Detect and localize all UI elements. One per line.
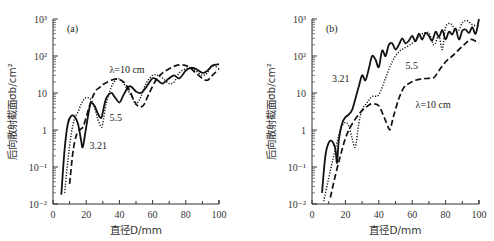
x-tick-label: 40	[114, 209, 124, 220]
x-tick-label: 80	[181, 209, 191, 220]
curve-label: 3.21	[332, 73, 350, 84]
y-tick-label: 10⁻²	[29, 199, 47, 210]
x-tick-label: 100	[472, 209, 487, 220]
curve-label: λ=10 cm	[416, 99, 451, 110]
x-tick-label: 0	[51, 209, 56, 220]
curve-label: 5.5	[406, 60, 419, 71]
series-line-5-5	[324, 21, 479, 202]
series-line-10cm	[70, 65, 219, 184]
x-axis-title: 直径D/mm	[369, 224, 421, 236]
curve-label: 5.5	[109, 112, 122, 123]
y-tick-label: 1	[42, 125, 47, 136]
y-axis-title: 后向散射截面σb/cm²	[265, 63, 277, 160]
x-tick-label: 0	[310, 209, 315, 220]
y-tick-label: 10⁻¹	[29, 162, 47, 173]
chart-panel-a: 10⁻²10⁻¹11010²10³020406080100直径D/mm后向散射截…	[6, 14, 227, 237]
y-tick-label: 10²	[34, 51, 47, 62]
figure: 10⁻²10⁻¹11010²10³020406080100直径D/mm后向散射截…	[0, 0, 494, 241]
y-tick-label: 10	[37, 88, 47, 99]
x-tick-label: 80	[441, 209, 451, 220]
panel-label: (a)	[67, 23, 78, 35]
x-tick-label: 60	[407, 209, 417, 220]
axis-lines	[312, 19, 479, 204]
y-tick-label: 10³	[34, 14, 47, 25]
curve-label: λ=10 cm	[109, 64, 144, 75]
y-tick-label: 10⁻²	[288, 199, 306, 210]
series-line-5-5	[65, 66, 219, 193]
x-tick-label: 60	[148, 209, 158, 220]
series-line-3-21	[322, 19, 479, 193]
series-line-3-21	[61, 64, 219, 194]
x-axis-title: 直径D/mm	[110, 224, 162, 236]
x-tick-label: 100	[212, 209, 227, 220]
y-tick-label: 10²	[293, 51, 306, 62]
x-tick-label: 20	[81, 209, 91, 220]
chart-panel-b: 10⁻²10⁻¹11010²10³020406080100直径D/mm后向散射截…	[265, 14, 487, 237]
y-axis-title: 后向散射截面σb/cm²	[6, 63, 18, 160]
panel-label: (b)	[326, 23, 338, 35]
x-tick-label: 40	[374, 209, 384, 220]
y-tick-label: 10³	[293, 14, 306, 25]
x-tick-label: 20	[340, 209, 350, 220]
curve-label: 3.21	[90, 140, 108, 151]
axis-lines	[53, 19, 219, 204]
y-tick-label: 10⁻¹	[288, 162, 306, 173]
y-tick-label: 10	[296, 88, 306, 99]
y-tick-label: 1	[301, 125, 306, 136]
